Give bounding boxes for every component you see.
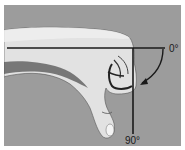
angle-label-90: 90° bbox=[125, 136, 140, 146]
flexion-arc-arrow bbox=[142, 49, 163, 83]
arrow-head-icon bbox=[140, 78, 148, 85]
angle-label-0: 0° bbox=[169, 44, 179, 54]
hand-shape bbox=[4, 27, 136, 138]
hand-illustration bbox=[4, 5, 181, 146]
diagram-frame bbox=[4, 5, 181, 146]
thumbnail bbox=[106, 124, 114, 136]
